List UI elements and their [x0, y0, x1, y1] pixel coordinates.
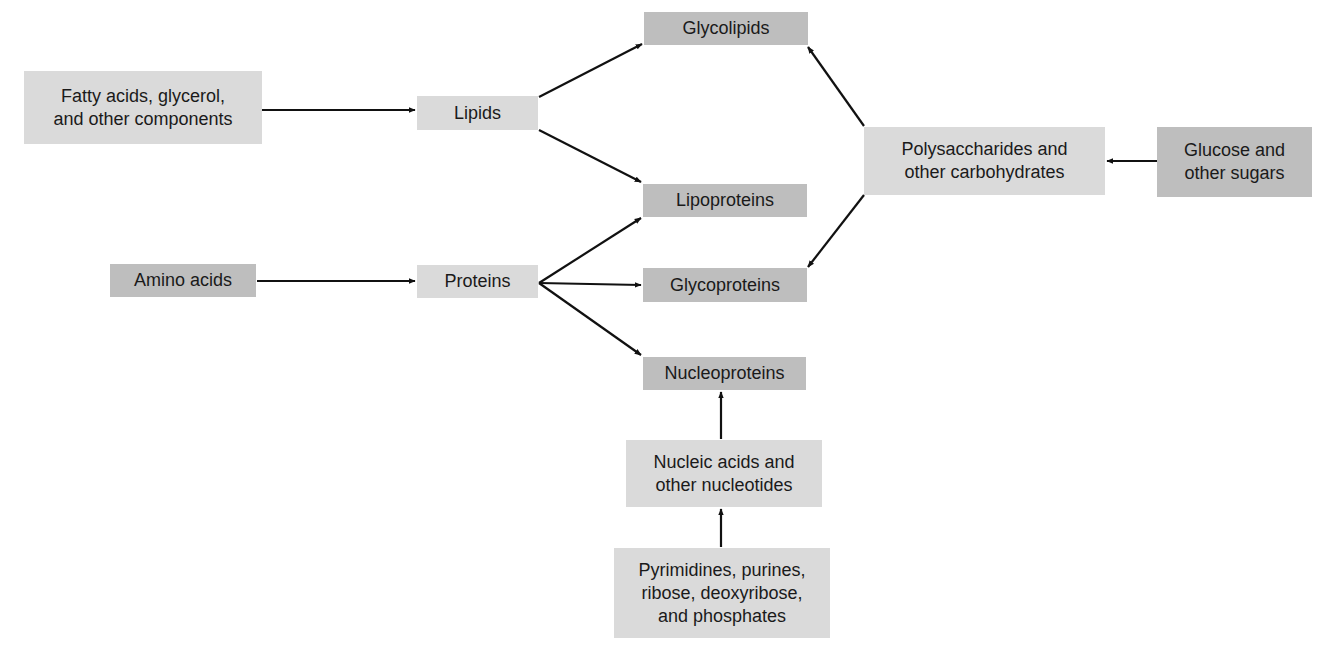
node-nucleic: Nucleic acids and other nucleotides [626, 440, 822, 507]
node-lipids: Lipids [417, 96, 538, 130]
node-nucleoproteins: Nucleoproteins [643, 357, 806, 390]
arrow-proteins-to-glycoproteins [539, 283, 641, 285]
node-glycolipids: Glycolipids [644, 12, 808, 45]
arrow-polysacch-to-glycolipids [808, 47, 864, 126]
arrow-polysacch-to-glycoproteins [808, 195, 864, 267]
node-polysacch: Polysaccharides and other carbohydrates [864, 127, 1105, 195]
node-fatty: Fatty acids, glycerol, and other compone… [24, 71, 262, 144]
arrow-lipids-to-glycolipids [539, 44, 642, 97]
node-glucose: Glucose and other sugars [1157, 127, 1312, 197]
node-glycoproteins: Glycoproteins [643, 268, 807, 302]
node-amino: Amino acids [110, 264, 256, 297]
node-pyrimidines: Pyrimidines, purines, ribose, deoxyribos… [614, 548, 830, 638]
node-proteins: Proteins [417, 265, 538, 298]
arrow-lipids-to-lipoproteins [539, 130, 641, 182]
arrow-proteins-to-lipoproteins [539, 218, 641, 283]
arrow-proteins-to-nucleoproteins [539, 283, 641, 355]
node-lipoproteins: Lipoproteins [643, 184, 807, 217]
